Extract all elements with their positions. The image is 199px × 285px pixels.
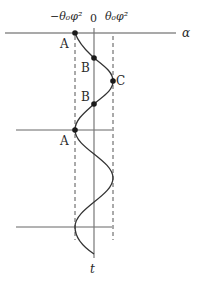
label-b-upper: B — [81, 61, 90, 75]
label-t: t — [90, 262, 95, 276]
point-a-lower — [72, 127, 78, 133]
label-a-top: A — [59, 37, 69, 51]
label-c: C — [116, 74, 125, 88]
label-alpha: α — [182, 26, 190, 40]
label-zero: 0 — [90, 12, 97, 25]
label-b-lower: B — [81, 90, 90, 104]
label-a-lower: A — [59, 134, 69, 148]
oscillation-diagram: A B C B A −θ₀φ² 0 θ₀φ² α t — [0, 0, 199, 285]
point-c — [110, 78, 116, 84]
point-b-upper — [91, 55, 97, 61]
point-b-lower — [91, 101, 97, 107]
point-a-top — [72, 30, 78, 36]
label-neg-theta-phi: −θ₀φ² — [50, 10, 82, 23]
label-pos-theta-phi: θ₀φ² — [105, 10, 128, 23]
